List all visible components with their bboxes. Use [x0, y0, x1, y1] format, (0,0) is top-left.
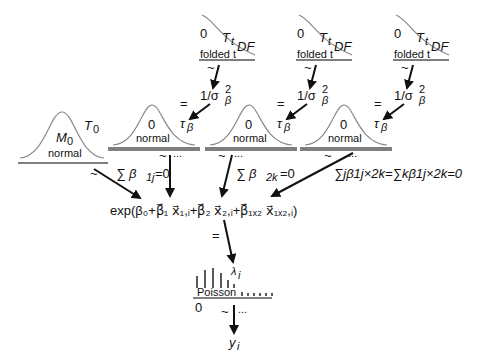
svg-text:i: i — [238, 269, 241, 281]
svg-text:β: β — [283, 121, 291, 133]
svg-text:normal: normal — [136, 132, 170, 144]
svg-text:T: T — [416, 30, 425, 45]
folded-t-prior-3: 0 T t DF folded t ~ 1/σ 2 β — [393, 15, 449, 106]
svg-text:~: ~ — [401, 60, 409, 75]
tilde: ~ — [207, 60, 215, 75]
svg-text:~: ~ — [218, 148, 226, 163]
svg-text:=: = — [180, 96, 188, 111]
svg-text:folded t: folded t — [297, 48, 333, 60]
poisson-likelihood: Poisson λ i 0 ~ ... y i — [193, 265, 272, 352]
svg-text:normal: normal — [328, 132, 362, 144]
linear-predictor: exp(β₀+β⃗₁ x⃗₁,ᵢ+β⃗₂ x⃗₂,ᵢ+β⃗₁ₓ₂ x⃗₁ₓ₂,ᵢ… — [110, 203, 297, 262]
zero-label: 0 — [200, 26, 207, 41]
svg-text:0: 0 — [297, 26, 304, 41]
folded-t-prior-1: 0 T t DF folded t ~ 1/σ 2 β — [199, 15, 255, 106]
svg-text:0: 0 — [67, 135, 73, 147]
svg-text:τ: τ — [180, 116, 186, 131]
svg-text:1/σ: 1/σ — [394, 88, 413, 103]
svg-text:~: ~ — [221, 304, 229, 319]
normal-prior-3: 0 normal = τ β ~ ... ∑jβ1j×2k=∑kβ1j×2k=0 — [272, 96, 463, 196]
svg-text:0: 0 — [245, 117, 252, 132]
svg-text:normal: normal — [48, 147, 82, 159]
svg-text:β: β — [321, 94, 329, 106]
svg-text:∑ β: ∑ β — [236, 166, 257, 181]
svg-text:folded t: folded t — [394, 48, 430, 60]
svg-text:0: 0 — [394, 26, 401, 41]
svg-text:β: β — [380, 121, 388, 133]
svg-text:t: t — [231, 35, 235, 47]
svg-text:τ: τ — [277, 116, 283, 131]
svg-text:t: t — [425, 35, 429, 47]
dist-label: T — [222, 30, 231, 45]
svg-text:y: y — [228, 335, 237, 350]
intercept-normal-prior: M 0 T 0 normal ~ — [18, 112, 140, 198]
svg-text:0: 0 — [148, 117, 155, 132]
svg-text:1/σ: 1/σ — [297, 88, 316, 103]
svg-text:M: M — [56, 130, 67, 145]
svg-text:~: ~ — [324, 148, 332, 163]
svg-text:β: β — [224, 94, 232, 106]
svg-text:1j: 1j — [146, 171, 155, 183]
svg-text:∑ β: ∑ β — [116, 166, 137, 181]
dist-name: folded t — [200, 48, 236, 60]
svg-text:=: = — [212, 228, 220, 243]
df-label: DF — [237, 39, 255, 54]
svg-text:T: T — [319, 30, 328, 45]
svg-text:...: ... — [234, 147, 243, 159]
svg-text:DF: DF — [334, 39, 352, 54]
svg-text:β: β — [186, 121, 194, 133]
svg-text:2k: 2k — [265, 171, 278, 183]
svg-text:λ: λ — [230, 265, 236, 277]
svg-text:T: T — [84, 118, 93, 133]
svg-text:∑jβ1j×2k=∑kβ1j×2k=0: ∑jβ1j×2k=∑kβ1j×2k=0 — [334, 166, 463, 181]
svg-text:~: ~ — [304, 60, 312, 75]
svg-text:0: 0 — [195, 300, 202, 315]
folded-t-prior-2: 0 T t DF folded t ~ 1/σ 2 β — [296, 15, 352, 106]
svg-text:...: ... — [238, 303, 247, 315]
svg-text:=: = — [277, 96, 285, 111]
svg-text:~: ~ — [159, 148, 167, 163]
svg-text:t: t — [328, 35, 332, 47]
svg-text:DF: DF — [431, 39, 449, 54]
svg-text:normal: normal — [233, 132, 267, 144]
svg-text:0: 0 — [340, 117, 347, 132]
svg-text:β: β — [418, 94, 426, 106]
svg-text:exp(β₀+β⃗₁ x⃗₁,ᵢ+β⃗₂ x⃗₂,ᵢ+β⃗₁: exp(β₀+β⃗₁ x⃗₁,ᵢ+β⃗₂ x⃗₂,ᵢ+β⃗₁ₓ₂ x⃗₁ₓ₂,ᵢ… — [110, 203, 297, 218]
svg-text:~: ~ — [90, 166, 98, 181]
svg-text:i: i — [237, 340, 240, 352]
svg-text:τ: τ — [374, 116, 380, 131]
normal-prior-1: 0 normal = τ β ~ ... ∑ β 1j =0 — [108, 96, 210, 196]
svg-text:...: ... — [173, 147, 182, 159]
normal-prior-2: 0 normal = τ β ~ ... ∑ β 2k =0 — [205, 96, 307, 196]
svg-text:Poisson: Poisson — [197, 286, 236, 298]
svg-text:=: = — [374, 96, 382, 111]
svg-text:=0: =0 — [155, 166, 170, 181]
svg-text:=0: =0 — [280, 166, 295, 181]
inv-variance: 1/σ — [200, 88, 219, 103]
hierarchical-model-diagram: 0 T t DF folded t ~ 1/σ 2 β 0 T t DF fol… — [0, 0, 486, 364]
svg-text:0: 0 — [93, 123, 99, 135]
